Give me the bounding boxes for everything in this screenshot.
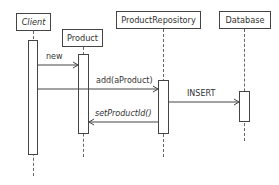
message-setproductid-label: setProductId() <box>95 109 152 118</box>
message-new-label: new <box>46 52 63 61</box>
message-arrows <box>0 0 279 185</box>
message-insert-label: INSERT <box>187 89 215 98</box>
message-add-label: add(aProduct) <box>96 76 153 85</box>
sequence-diagram: Client Product ProductRepository Databas… <box>0 0 279 185</box>
